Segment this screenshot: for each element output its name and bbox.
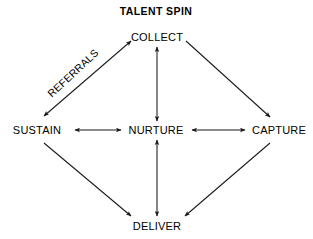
node-nurture[interactable]: NURTURE [129, 125, 184, 136]
edge-capture-deliver [185, 143, 270, 216]
node-capture[interactable]: CAPTURE [252, 125, 306, 136]
node-collect[interactable]: COLLECT [131, 32, 183, 43]
diagram-title: TALENT SPIN [120, 6, 192, 17]
node-deliver[interactable]: DELIVER [133, 221, 181, 232]
edge-label-referrals: REFERRALS [46, 47, 101, 99]
edge-sustain-deliver [44, 143, 131, 216]
edge-collect-capture [186, 41, 270, 117]
node-sustain[interactable]: SUSTAIN [13, 125, 61, 136]
talent-spin-diagram: TALENT SPIN COLLECT SUST [0, 0, 313, 239]
